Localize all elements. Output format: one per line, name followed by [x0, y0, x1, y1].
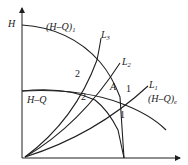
point-2-lower: 2: [81, 91, 86, 102]
label-hq-e: (H–Q)e: [148, 93, 177, 105]
pump-curve-diagram: H Q (H–Q)1 H–Q (H–Q)e L3 L2 L1 A 1 1 2 2: [0, 0, 188, 165]
label-l2: L2: [121, 56, 132, 68]
point-2-upper: 2: [75, 68, 80, 79]
y-axis-label: H: [7, 18, 16, 29]
label-hq-single: H–Q: [26, 94, 47, 105]
point-1-upper: 1: [126, 83, 131, 94]
label-hq-upper: (H–Q)1: [46, 21, 75, 33]
label-l3: L3: [100, 29, 111, 41]
point-1-lower: 1: [120, 109, 125, 120]
label-l1: L1: [148, 79, 158, 91]
point-a: A: [109, 81, 117, 92]
